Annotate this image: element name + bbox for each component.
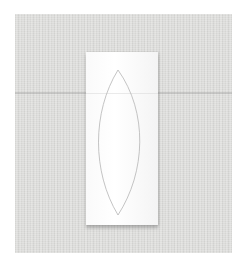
- lens-shape-outline: [86, 52, 158, 225]
- paper-sheet: [86, 52, 158, 225]
